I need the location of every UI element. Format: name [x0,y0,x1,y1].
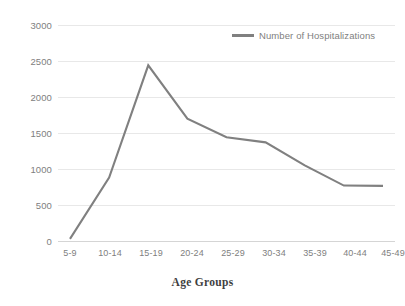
y-tick-label: 3000 [6,20,52,31]
x-tick-label: 25-29 [210,248,256,258]
chart-legend: Number of Hospitalizations [232,30,375,41]
x-tick-label: 15-19 [128,248,174,258]
x-tick-label: 45-49 [370,248,405,258]
line-chart: 3000 2500 2000 1500 1000 500 0 5-9 10-14… [0,0,405,306]
y-tick-label: 500 [6,200,52,211]
y-tick-label: 0 [6,236,52,247]
y-tick-label: 1500 [6,128,52,139]
chart-title [62,0,362,5]
y-tick-label: 1000 [6,164,52,175]
y-tick-label: 2500 [6,56,52,67]
x-tick-label: 20-24 [169,248,215,258]
legend-line-swatch-icon [232,34,254,36]
x-tick-label: 30-34 [251,248,297,258]
plot-area [58,25,395,241]
series-line-number-of-hospitalizations [70,65,383,239]
x-axis-title: Age Groups [0,276,405,288]
legend-entry-label: Number of Hospitalizations [259,30,375,41]
x-tick-label: 10-14 [87,248,133,258]
x-axis-line [58,241,395,242]
y-tick-label: 2000 [6,92,52,103]
series-layer [58,25,395,241]
